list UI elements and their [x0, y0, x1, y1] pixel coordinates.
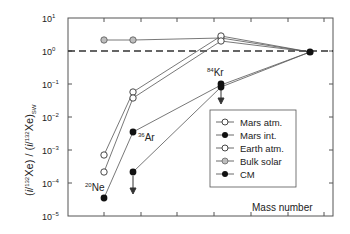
ar-label: 36Ar: [138, 132, 155, 143]
legend-cm: CM: [240, 169, 255, 180]
svg-text:10−5: 10−5: [42, 211, 60, 222]
legend-bulk-solar: Bulk solar: [240, 156, 282, 167]
legend-open-marker-icon: [222, 119, 228, 125]
svg-text:101: 101: [42, 13, 56, 24]
y-tick-labels: 101 100 10−1 10−2 10−3 10−4 10−5: [42, 13, 60, 222]
legend-open-marker-icon: [222, 145, 228, 151]
svg-text:10−1: 10−1: [42, 79, 60, 90]
legend-gray-marker-icon: [222, 158, 228, 164]
svg-text:100: 100: [42, 46, 56, 57]
chart: 101 100 10−1 10−2 10−3 10−4 10−5 (i/132X…: [0, 0, 350, 234]
legend-mars-int: Mars int.: [240, 130, 276, 141]
legend-filled-marker-icon: [222, 171, 228, 177]
svg-text:10−2: 10−2: [42, 112, 60, 123]
x-axis-label: Mass number: [252, 202, 313, 213]
y-axis-label: (i/132Xe) / (i/132Xe)SW: [23, 104, 37, 196]
svg-text:10−4: 10−4: [42, 178, 60, 189]
kr-label: 84Kr: [207, 67, 224, 78]
svg-text:10−3: 10−3: [42, 145, 60, 156]
legend-filled-marker-icon: [222, 132, 228, 138]
legend-mars-atm: Mars atm.: [240, 117, 282, 128]
legend-earth-atm: Earth atm.: [240, 143, 284, 154]
ne-label: 20Ne: [85, 182, 105, 193]
legend: Mars atm. Mars int. Earth atm. Bulk sola…: [210, 110, 296, 187]
